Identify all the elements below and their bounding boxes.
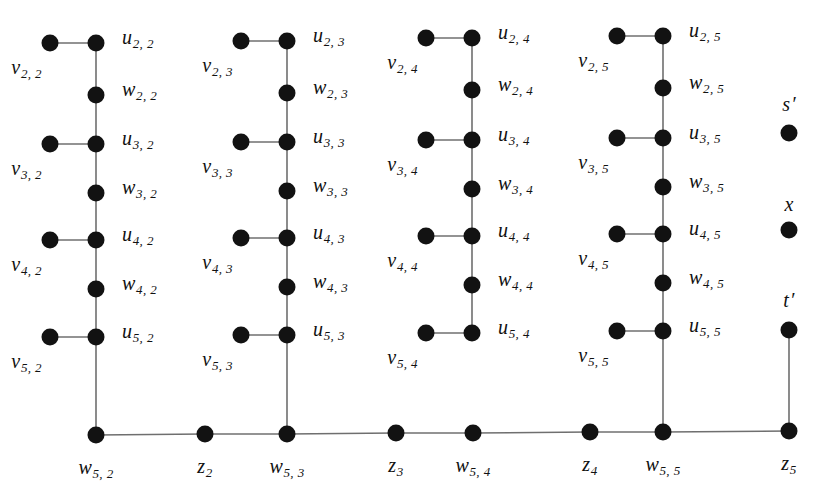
label-u-4-5: u4, 5	[689, 218, 721, 241]
label-v-5-4: v5, 4	[387, 347, 418, 370]
label-w-3-2: w3, 2	[122, 177, 157, 200]
label-v-2-2: v2, 2	[11, 57, 42, 80]
label-w-4-3: w4, 3	[313, 271, 348, 294]
label-u-4-2: u4, 2	[122, 224, 154, 247]
label-s_prime: s′	[782, 94, 796, 114]
label-w-4-5: w4, 5	[689, 267, 724, 290]
label-v-4-3: v4, 3	[202, 252, 233, 275]
label-w-4-4: w4, 4	[498, 269, 533, 292]
label-u-2-5: u2, 5	[689, 20, 721, 43]
label-w-2-5: w2, 5	[689, 72, 724, 95]
label-w-3-5: w3, 5	[689, 171, 724, 194]
label-v-3-4: v3, 4	[387, 154, 418, 177]
label-u-2-4: u2, 4	[498, 22, 530, 45]
label-v-4-5: v4, 5	[578, 248, 609, 271]
label-z5: z5	[781, 453, 796, 476]
label-v-2-5: v2, 5	[578, 50, 609, 73]
label-u-2-2: u2, 2	[122, 27, 154, 50]
label-x: x	[784, 194, 793, 214]
label-w-4-2: w4, 2	[122, 273, 157, 296]
label-v-4-2: v4, 2	[11, 254, 42, 277]
label-u-3-2: u3, 2	[122, 128, 154, 151]
label-v-3-5: v3, 5	[578, 152, 609, 175]
label-u-5-3: u5, 3	[313, 319, 345, 342]
label-u-2-3: u2, 3	[313, 25, 345, 48]
label-w-3-3: w3, 3	[313, 175, 348, 198]
label-w-2-2: w2, 2	[122, 79, 157, 102]
label-v-5-5: v5, 5	[578, 345, 609, 368]
label-w5_5: w5, 5	[645, 454, 680, 477]
label-t_prime: t′	[783, 290, 794, 310]
label-v-5-2: v5, 2	[11, 351, 42, 374]
label-u-3-5: u3, 5	[689, 122, 721, 145]
label-z2: z2	[197, 456, 212, 479]
label-v-3-2: v3, 2	[11, 158, 42, 181]
label-z3: z3	[388, 455, 403, 478]
label-u-5-2: u5, 2	[122, 321, 154, 344]
label-w5_3: w5, 3	[269, 456, 304, 479]
label-v-4-4: v4, 4	[387, 250, 418, 273]
label-u-5-5: u5, 5	[689, 315, 721, 338]
label-u-4-4: u4, 4	[498, 220, 530, 243]
label-v-5-3: v5, 3	[202, 349, 233, 372]
label-u-4-3: u4, 3	[313, 222, 345, 245]
label-w5_2: w5, 2	[78, 457, 113, 480]
label-w-3-4: w3, 4	[498, 173, 533, 196]
label-w5_4: w5, 4	[455, 455, 490, 478]
label-u-3-4: u3, 4	[498, 124, 530, 147]
label-u-5-4: u5, 4	[498, 317, 530, 340]
label-v-3-3: v3, 3	[202, 156, 233, 179]
label-layer: u2, 2v2, 2w2, 2u3, 2v3, 2w3, 2u4, 2v4, 2…	[0, 0, 822, 504]
label-v-2-4: v2, 4	[387, 52, 418, 75]
label-z4: z4	[582, 454, 597, 477]
figure-canvas: u2, 2v2, 2w2, 2u3, 2v3, 2w3, 2u4, 2v4, 2…	[0, 0, 822, 504]
label-w-2-3: w2, 3	[313, 77, 348, 100]
label-u-3-3: u3, 3	[313, 126, 345, 149]
label-v-2-3: v2, 3	[202, 55, 233, 78]
label-w-2-4: w2, 4	[498, 74, 533, 97]
